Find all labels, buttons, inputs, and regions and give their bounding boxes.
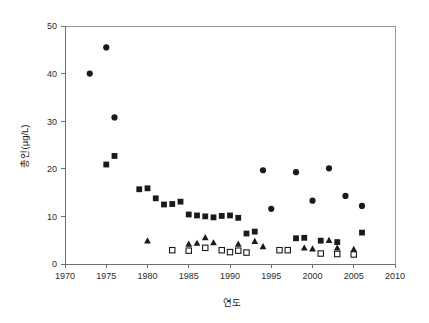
x-tick-label: 1995 [261, 271, 281, 281]
series-filled-circle [87, 44, 365, 212]
data-point [227, 249, 232, 254]
y-axis-label: 총인(µg/L) [19, 124, 30, 167]
data-point [309, 198, 315, 204]
x-tick-label: 1980 [137, 271, 157, 281]
data-point [293, 169, 299, 175]
data-point [252, 229, 258, 235]
y-tick-label: 40 [47, 69, 57, 79]
data-point [211, 214, 217, 220]
data-point [178, 199, 184, 205]
x-tick-label: 2000 [302, 271, 322, 281]
y-tick-label: 30 [47, 117, 57, 127]
data-point [111, 114, 117, 120]
data-points [87, 44, 365, 257]
data-point [351, 252, 356, 257]
data-point [260, 243, 267, 249]
data-point [170, 247, 175, 252]
data-point [301, 235, 307, 241]
data-point [112, 153, 118, 159]
y-axis-ticks: 01020304050 [47, 21, 65, 269]
data-point [244, 250, 249, 255]
x-tick-label: 2010 [385, 271, 405, 281]
data-point [194, 240, 201, 246]
data-point [161, 202, 167, 208]
data-point [235, 215, 241, 221]
data-point [103, 44, 109, 50]
x-tick-label: 1975 [96, 271, 116, 281]
data-point [334, 244, 341, 250]
data-point [309, 245, 316, 251]
y-tick-label: 50 [47, 21, 57, 31]
chart-figure: 197019751980198519901995200020052010 010… [0, 0, 429, 323]
data-point [359, 230, 365, 236]
data-point [285, 247, 290, 252]
data-point [235, 241, 242, 247]
data-point [293, 235, 299, 241]
data-point [219, 247, 224, 252]
data-point [335, 251, 340, 256]
data-point [169, 201, 175, 207]
plot-frame [65, 26, 395, 264]
data-point [318, 251, 323, 256]
data-point [194, 213, 200, 219]
data-point [136, 186, 142, 192]
x-tick-label: 2005 [344, 271, 364, 281]
y-tick-label: 10 [47, 212, 57, 222]
data-point [203, 245, 208, 250]
data-point [334, 239, 340, 245]
data-point [236, 248, 241, 253]
data-point [301, 244, 308, 250]
data-point [227, 213, 233, 219]
series-filled-triangle [144, 234, 357, 252]
data-point [202, 214, 208, 220]
series-filled-square [103, 153, 365, 245]
data-point [153, 195, 159, 201]
data-point [318, 238, 324, 244]
data-point [219, 213, 225, 219]
data-point [145, 185, 151, 191]
data-point [186, 212, 192, 218]
x-tick-label: 1970 [55, 271, 75, 281]
data-point [87, 71, 93, 77]
y-tick-label: 20 [47, 164, 57, 174]
x-axis-label: 연도 [223, 297, 241, 308]
data-point [244, 231, 250, 237]
data-point [202, 234, 209, 240]
data-point [326, 165, 332, 171]
data-point [251, 238, 258, 244]
data-point [260, 167, 266, 173]
data-point [103, 162, 109, 168]
data-point [186, 248, 191, 253]
x-tick-label: 1985 [179, 271, 199, 281]
x-tick-label: 1990 [220, 271, 240, 281]
scatter-plot: 197019751980198519901995200020052010 010… [0, 0, 429, 323]
data-point [277, 247, 282, 252]
data-point [326, 237, 333, 243]
data-point [342, 193, 348, 199]
data-point [359, 203, 365, 209]
data-point [210, 239, 217, 245]
data-point [350, 246, 357, 252]
data-point [144, 237, 151, 243]
data-point [185, 241, 192, 247]
data-point [268, 206, 274, 212]
y-tick-label: 0 [52, 259, 57, 269]
x-axis-ticks: 197019751980198519901995200020052010 [55, 264, 405, 281]
